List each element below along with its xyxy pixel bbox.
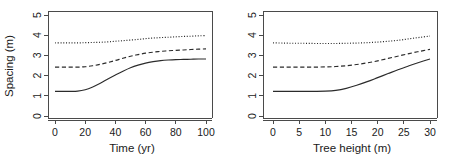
x-tick-label: 15 [346,126,358,138]
x-tick-label: 40 [110,126,122,138]
x-tick-label: 60 [140,126,152,138]
chart-svg-left: Spacing (m) 012345 020406080100 Time (yr… [0,0,225,163]
y-tick-label: 5 [246,12,258,18]
y-tick-labels-left: 012345 [31,12,43,119]
chart-panel-left: Spacing (m) 012345 020406080100 Time (yr… [0,0,225,163]
y-tick-label: 3 [246,52,258,58]
curve-group-left [55,36,206,92]
chart-svg-right: 012345 051015202530 Tree height (m) [225,0,450,163]
x-tick-label: 10 [319,126,331,138]
x-tick-label: 25 [398,126,410,138]
x-tick-label: 30 [424,126,436,138]
x-tick-marks-left [55,120,206,124]
y-tick-label: 0 [246,113,258,119]
y-tick-label: 1 [246,93,258,99]
y-axis-right: 012345 [246,12,263,119]
y-tick-label: 2 [246,73,258,79]
x-tick-label: 20 [79,126,91,138]
x-tick-labels-left: 020406080100 [52,126,215,138]
curve-lower-solid [273,59,430,91]
y-axis-left: 012345 [31,12,48,119]
plot-frame-left [48,11,212,118]
x-axis-left: 020406080100 [48,120,215,138]
y-tick-label: 3 [31,52,43,58]
x-tick-label: 0 [270,126,276,138]
y-tick-label: 4 [31,32,43,38]
curve-upper-dotted [55,36,206,43]
x-tick-label: 100 [197,126,215,138]
y-tick-label: 2 [31,73,43,79]
chart-panel-right: 012345 051015202530 Tree height (m) [225,0,450,163]
curve-group-right [273,36,430,91]
x-tick-marks-right [273,120,430,124]
x-tick-label: 80 [170,126,182,138]
y-tick-label: 1 [31,93,43,99]
y-tick-label: 5 [31,12,43,18]
x-axis-title-left: Time (yr) [109,142,155,154]
curve-upper-dotted [273,36,430,43]
curve-middle-dashed [55,49,206,67]
y-axis-title-left: Spacing (m) [3,35,15,97]
figure-container: Spacing (m) 012345 020406080100 Time (yr… [0,0,450,163]
x-tick-label: 20 [372,126,384,138]
curve-middle-dashed [273,49,430,67]
curve-lower-solid [55,59,206,91]
x-axis-title-right: Tree height (m) [313,142,391,154]
x-tick-label: 0 [52,126,58,138]
y-tick-labels-right: 012345 [246,12,258,119]
x-tick-labels-right: 051015202530 [270,126,436,138]
x-tick-label: 5 [296,126,302,138]
x-axis-right: 051015202530 [263,120,437,138]
y-tick-label: 4 [246,32,258,38]
y-tick-marks-left [44,15,48,116]
y-tick-marks-right [259,15,263,116]
y-tick-label: 0 [31,113,43,119]
